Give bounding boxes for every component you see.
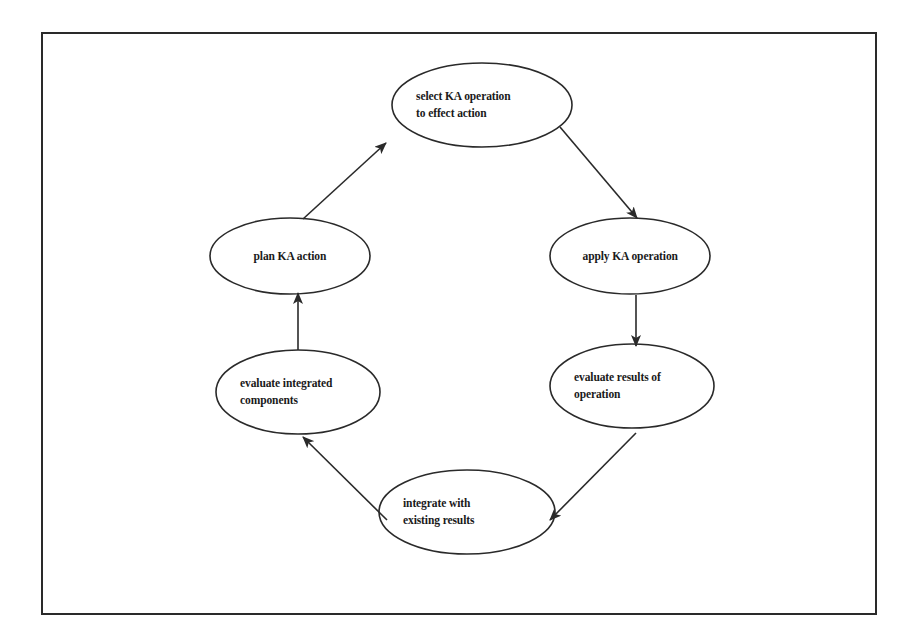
node-label-line: integrate with <box>403 495 474 512</box>
node-label-line: components <box>240 392 332 409</box>
node-label-line: apply KA operation <box>583 248 678 265</box>
node-label-line: plan KA action <box>254 248 327 265</box>
node-label-integrate: integrate withexisting results <box>403 495 474 529</box>
node-label-eval_integrated: evaluate integratedcomponents <box>240 375 332 409</box>
node-label-line: evaluate results of <box>574 369 661 386</box>
node-label-apply: apply KA operation <box>583 248 678 265</box>
edges <box>298 127 637 520</box>
diagram-canvas: select KA operationto effect actionapply… <box>0 0 913 643</box>
node-label-line: existing results <box>403 512 474 529</box>
arrow-select-to-apply <box>560 127 637 218</box>
node-label-select: select KA operationto effect action <box>416 88 511 122</box>
node-label-line: select KA operation <box>416 88 511 105</box>
nodes <box>210 63 714 554</box>
node-label-line: evaluate integrated <box>240 375 332 392</box>
arrow-plan-to-select <box>303 143 386 219</box>
node-label-plan: plan KA action <box>254 248 327 265</box>
arrow-integrate-to-eval_integrated <box>303 437 387 520</box>
node-label-line: to effect action <box>416 105 511 122</box>
arrow-eval_results-to-integrate <box>550 433 636 520</box>
node-label-line: operation <box>574 386 661 403</box>
node-label-eval_results: evaluate results ofoperation <box>574 369 661 403</box>
